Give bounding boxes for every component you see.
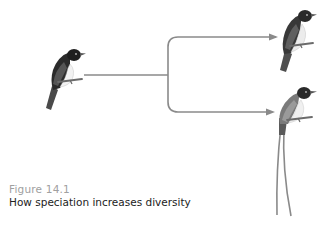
arrow-bottom-icon <box>266 109 275 116</box>
arrowheads <box>266 34 278 116</box>
descendant-bird-long-tail <box>277 87 317 216</box>
arrow-top-icon <box>269 34 278 41</box>
ancestral-bird <box>46 49 86 110</box>
branching-connector <box>84 37 276 112</box>
figure-title: How speciation increases diversity <box>9 196 191 209</box>
descendant-bird-short-tail <box>280 10 317 72</box>
figure-caption: Figure 14.1 How speciation increases div… <box>9 183 191 209</box>
figure-label: Figure 14.1 <box>9 183 191 196</box>
